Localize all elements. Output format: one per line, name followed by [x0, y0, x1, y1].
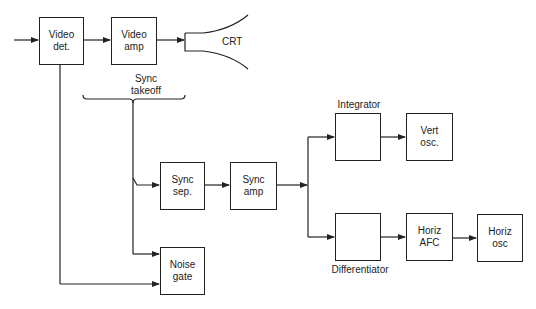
horiz-afc-label-1: Horiz: [418, 225, 441, 237]
sync-takeoff-label: Sync takeoff: [116, 73, 176, 97]
video-det-label-1: Video: [49, 29, 74, 41]
sync-sep-label-2: sep.: [173, 186, 192, 198]
video-amp-label-2: amp: [124, 41, 143, 53]
sync-takeoff-line-2: takeoff: [116, 85, 176, 97]
video-det-block: Video det.: [39, 17, 84, 65]
sync-amp-label-2: amp: [244, 186, 263, 198]
vert-osc-block: Vert osc.: [406, 113, 453, 161]
crt-label: CRT: [222, 36, 242, 48]
differentiator-label: Differentiator: [325, 264, 395, 276]
vert-osc-label-1: Vert: [421, 125, 439, 137]
horiz-osc-label-2: osc: [492, 238, 508, 250]
sync-takeoff-line-1: Sync: [116, 73, 176, 85]
video-det-label-2: det.: [53, 41, 70, 53]
integrator-label: Integrator: [332, 99, 386, 111]
sync-sep-label-1: Sync: [171, 174, 193, 186]
horiz-afc-label-2: AFC: [420, 237, 440, 249]
differentiator-block: [335, 213, 381, 261]
noise-gate-block: Noise gate: [160, 247, 205, 295]
video-amp-label-1: Video: [121, 29, 146, 41]
vert-osc-label-2: osc.: [420, 137, 438, 149]
noise-gate-label-1: Noise: [170, 259, 196, 271]
sync-amp-label-1: Sync: [242, 174, 264, 186]
sync-amp-block: Sync amp: [230, 162, 277, 210]
horiz-osc-block: Horiz osc: [477, 214, 523, 262]
integrator-block: [335, 113, 381, 161]
noise-gate-label-2: gate: [173, 271, 192, 283]
horiz-afc-block: Horiz AFC: [406, 213, 453, 261]
sync-sep-block: Sync sep.: [160, 162, 205, 210]
video-amp-block: Video amp: [111, 17, 157, 65]
horiz-osc-label-1: Horiz: [488, 226, 511, 238]
